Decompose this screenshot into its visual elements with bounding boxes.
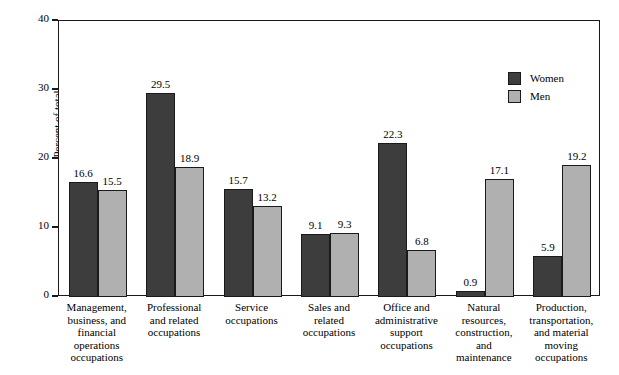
y-tick-label: 30 xyxy=(38,81,49,93)
x-axis-label-4: Office andadministrativesupportoccupatio… xyxy=(362,301,451,351)
x-axis-label-line: Sales and xyxy=(284,301,373,314)
x-axis-label-line: occupations xyxy=(207,314,296,327)
legend-label-men: Men xyxy=(530,90,550,102)
bar-men-3 xyxy=(330,233,359,297)
bar-men-4 xyxy=(407,250,436,297)
x-axis-label-line: occupations xyxy=(284,326,373,339)
x-axis-label-line: maintenance xyxy=(439,351,528,364)
legend-item-women[interactable]: Women xyxy=(508,69,564,87)
x-axis-label-line: financial xyxy=(52,326,141,339)
legend-item-men[interactable]: Men xyxy=(508,87,564,105)
x-axis-label-1: Professionaland relatedoccupations xyxy=(129,301,218,339)
x-axis-label-line: occupations xyxy=(517,351,606,364)
chart-legend: Women Men xyxy=(508,69,564,105)
y-tick-label: 40 xyxy=(38,12,49,24)
legend-swatch-men xyxy=(508,90,521,103)
x-axis-label-line: administrative xyxy=(362,314,451,327)
x-axis-label-line: occupations xyxy=(129,326,218,339)
x-axis-label-line: and related xyxy=(129,314,218,327)
x-axis-label-line: and xyxy=(439,339,528,352)
bar-value-label: 17.1 xyxy=(477,164,522,176)
bar-men-6 xyxy=(562,165,591,297)
x-axis-label-line: Professional xyxy=(129,301,218,314)
x-axis-label-line: moving xyxy=(517,339,606,352)
x-axis-label-line: resources, xyxy=(439,314,528,327)
x-axis-label-0: Management,business, andfinancialoperati… xyxy=(52,301,141,364)
bar-value-label: 29.5 xyxy=(138,78,183,90)
x-axis-label-line: and material xyxy=(517,326,606,339)
bar-men-0 xyxy=(98,190,127,297)
x-axis-label-5: Naturalresources,construction,andmainten… xyxy=(439,301,528,364)
bar-value-label: 6.8 xyxy=(399,235,444,247)
x-axis-label-line: occupations xyxy=(52,351,141,364)
x-axis-label-line: construction, xyxy=(439,326,528,339)
plot-area: 16.615.529.518.915.713.29.19.322.36.80.9… xyxy=(58,20,600,296)
bar-women-6 xyxy=(533,256,562,297)
x-axis-label-line: Office and xyxy=(362,301,451,314)
chart-page: Percent of total 010203040 16.615.529.51… xyxy=(0,0,619,375)
bar-value-label: 18.9 xyxy=(167,152,212,164)
legend-swatch-women xyxy=(508,72,521,85)
bar-women-1 xyxy=(146,93,175,297)
x-axis-label-3: Sales andrelatedoccupations xyxy=(284,301,373,339)
bar-value-label: 22.3 xyxy=(370,128,415,140)
x-axis-label-line: Management, xyxy=(52,301,141,314)
x-axis-label-line: business, and xyxy=(52,314,141,327)
bar-men-2 xyxy=(253,206,282,297)
x-axis-label-line: support xyxy=(362,326,451,339)
bar-men-1 xyxy=(175,167,204,297)
y-tick-label: 0 xyxy=(44,288,50,300)
x-axis-label-line: Service xyxy=(207,301,296,314)
bar-value-label: 15.7 xyxy=(216,174,261,186)
bar-women-2 xyxy=(224,189,253,297)
x-axis-label-line: Natural xyxy=(439,301,528,314)
bar-women-0 xyxy=(69,182,98,297)
x-axis-label-line: Production, xyxy=(517,301,606,314)
bar-women-4 xyxy=(378,143,407,297)
bar-women-3 xyxy=(301,234,330,297)
x-axis-label-line: operations xyxy=(52,339,141,352)
legend-label-women: Women xyxy=(530,72,564,84)
bar-value-label: 15.5 xyxy=(90,175,135,187)
bar-women-5 xyxy=(456,291,485,297)
x-axis-label-2: Serviceoccupations xyxy=(207,301,296,326)
bar-value-label: 19.2 xyxy=(554,150,599,162)
bar-men-5 xyxy=(485,179,514,297)
y-tick-label: 20 xyxy=(38,150,49,162)
bar-value-label: 9.3 xyxy=(322,218,367,230)
x-axis-label-line: occupations xyxy=(362,339,451,352)
y-tick-label: 10 xyxy=(38,219,49,231)
x-axis-label-line: transportation, xyxy=(517,314,606,327)
x-axis-label-line: related xyxy=(284,314,373,327)
bar-value-label: 13.2 xyxy=(245,191,290,203)
x-axis-label-6: Production,transportation,and materialmo… xyxy=(517,301,606,364)
